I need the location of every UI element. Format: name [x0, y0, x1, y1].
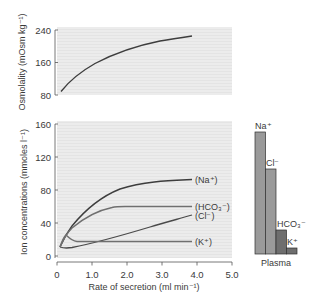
- plasma-bar-cl: [266, 169, 277, 254]
- hco3-curve-label: (HCO₃⁻): [195, 202, 230, 212]
- na-curve-label: (Na⁺): [195, 175, 218, 185]
- ion-xtick-3: 3.0: [155, 269, 168, 280]
- plasma-bar-chart: Na⁺ Cl⁻ HCO₃⁻ K⁺ Plasma: [255, 121, 306, 268]
- osmolality-ytick-240: 240: [35, 25, 51, 36]
- plasma-label-hco3: HCO₃⁻: [277, 219, 306, 229]
- osmolality-ytick-160: 160: [35, 57, 51, 68]
- ion-ytick-40: 40: [40, 218, 51, 229]
- plasma-bar-hco3: [276, 230, 287, 254]
- ion-xtick-1: 1.0: [85, 269, 98, 280]
- osmolality-y-axis-label: Osmolality (mOsm kg⁻¹): [17, 13, 27, 110]
- cl-curve-label: (Cl⁻): [195, 211, 215, 221]
- plasma-title: Plasma: [261, 258, 291, 268]
- plasma-bar-na: [255, 132, 266, 254]
- plasma-label-cl: Cl⁻: [266, 158, 280, 168]
- secretion-figure: 240 160 80 Osmolality (mOsm kg⁻¹) 160 12…: [0, 0, 315, 305]
- k-curve-label: (K⁺): [195, 237, 212, 247]
- osmolality-chart: 240 160 80 Osmolality (mOsm kg⁻¹): [17, 13, 232, 110]
- ion-ytick-0: 0: [46, 251, 51, 262]
- ion-y-axis-label: Ion concentrations (mmoles l⁻¹): [19, 129, 29, 255]
- ion-ytick-160: 160: [35, 119, 51, 130]
- ion-x-axis-label: Rate of secretion (ml min⁻¹): [88, 282, 199, 292]
- ion-xtick-2: 2.0: [120, 269, 133, 280]
- plasma-bar-k: [287, 248, 298, 254]
- ion-ytick-120: 120: [35, 152, 51, 163]
- ion-ytick-80: 80: [40, 185, 51, 196]
- ion-xtick-0: 0: [54, 269, 59, 280]
- ion-xtick-5: 5.0: [225, 269, 238, 280]
- ion-concentration-chart: 160 120 80 40 0 Ion concentrations (mmol…: [19, 119, 239, 293]
- plasma-label-k: K⁺: [287, 237, 298, 247]
- osmolality-ytick-80: 80: [40, 90, 51, 101]
- osmolality-plot-area: [57, 27, 232, 95]
- plasma-label-na: Na⁺: [255, 121, 272, 131]
- ion-xtick-4: 4.0: [190, 269, 203, 280]
